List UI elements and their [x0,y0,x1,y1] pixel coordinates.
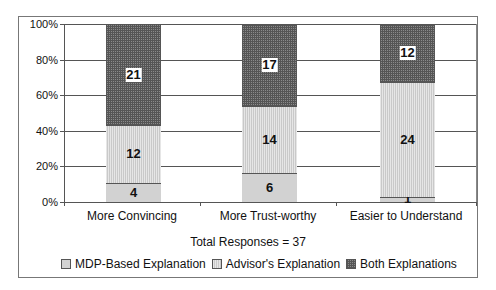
bar-segment-both: 12 [380,24,435,82]
x-tick-label: More Convincing [87,209,177,223]
y-tick-mark [60,95,65,96]
total-responses-caption: Total Responses = 37 [0,235,496,249]
y-tick-label: 80% [18,54,58,66]
y-tick-mark [60,166,65,167]
legend-swatch-mdp-icon [61,259,71,269]
x-tick-label: More Trust-worthy [220,209,317,223]
y-tick-label: 0% [18,196,58,208]
bar-segment-adv: 24 [380,82,435,197]
bar-segment-adv: 12 [106,125,161,183]
stacked-bar: 12412 [380,24,435,202]
y-tick-label: 100% [18,18,58,30]
x-tick-mark [200,202,201,206]
y-tick-label: 20% [18,160,58,172]
data-label: 6 [265,181,274,195]
stacked-bar: 61417 [242,24,297,202]
y-tick-mark [60,131,65,132]
data-label: 14 [261,133,277,147]
legend: MDP-Based Explanation Advisor's Explanat… [61,257,463,271]
y-tick-label: 60% [18,89,58,101]
legend-item-mdp: MDP-Based Explanation [61,257,206,271]
legend-label-mdp: MDP-Based Explanation [75,257,206,271]
y-tick-mark [60,60,65,61]
data-label: 21 [125,68,141,82]
x-tick-mark [336,202,337,206]
bar-segment-both: 17 [242,24,297,106]
bar-segment-adv: 14 [242,106,297,173]
stacked-bar: 41221 [106,24,161,202]
data-label: 12 [125,147,141,161]
data-label: 17 [261,58,277,72]
legend-swatch-both-icon [346,259,356,269]
legend-label-advisor: Advisor's Explanation [226,257,340,271]
x-tick-label: Easier to Understand [350,209,463,223]
legend-item-both: Both Explanations [346,257,457,271]
bar-segment-both: 21 [106,24,161,125]
data-label: 24 [399,133,415,147]
legend-item-advisor: Advisor's Explanation [212,257,340,271]
legend-swatch-advisor-icon [212,259,222,269]
bar-segment-mdp: 6 [242,173,297,202]
data-label: 4 [129,186,138,200]
y-tick-mark [60,24,65,25]
x-tick-mark [64,202,65,206]
data-label: 12 [399,46,415,60]
bar-segment-mdp: 4 [106,183,161,202]
legend-label-both: Both Explanations [360,257,457,271]
x-tick-mark [476,202,477,206]
x-axis-line [65,202,476,203]
y-tick-label: 40% [18,125,58,137]
bar-segment-mdp: 1 [380,197,435,202]
plot-area: 412216141712412 [64,24,477,202]
